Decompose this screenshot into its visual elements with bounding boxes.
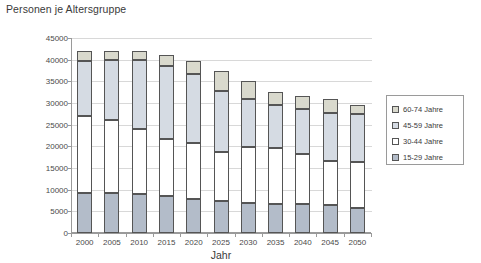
bar-segment bbox=[323, 99, 338, 113]
bar-segment bbox=[132, 129, 147, 194]
x-axis-tick-label: 2030 bbox=[239, 238, 257, 247]
legend-swatch-icon bbox=[392, 154, 399, 161]
bar-segment bbox=[159, 196, 174, 233]
bar-segment bbox=[132, 194, 147, 233]
y-axis-tick-label: 40000 bbox=[46, 55, 68, 64]
bar-segment bbox=[214, 91, 229, 152]
x-axis-tick-label: 2050 bbox=[348, 238, 366, 247]
bar-segment bbox=[186, 199, 201, 233]
legend-item[interactable]: 15-29 Jahre bbox=[392, 149, 463, 165]
x-axis-tick-label: 2015 bbox=[158, 238, 176, 247]
bar-column bbox=[77, 38, 92, 233]
x-axis-tick bbox=[207, 233, 208, 237]
x-axis-tick bbox=[371, 233, 372, 237]
x-axis-tick-label: 2045 bbox=[321, 238, 339, 247]
legend-swatch-icon bbox=[392, 138, 399, 145]
bar-column bbox=[323, 38, 338, 233]
bar-column bbox=[350, 38, 365, 233]
y-axis-tick-label: 25000 bbox=[46, 120, 68, 129]
bar-segment bbox=[214, 71, 229, 91]
bar-column bbox=[268, 38, 283, 233]
bar-segment bbox=[241, 81, 256, 98]
x-axis-tick bbox=[316, 233, 317, 237]
bar-segment bbox=[104, 51, 119, 60]
legend-swatch-icon bbox=[392, 122, 399, 129]
bar-segment bbox=[132, 51, 147, 60]
bar-segment bbox=[268, 148, 283, 204]
chart-container: Personen je Altersgruppe 050001000015000… bbox=[0, 0, 481, 263]
bar-segment bbox=[132, 60, 147, 129]
bar-segment bbox=[241, 147, 256, 203]
y-axis-tick-label: 15000 bbox=[46, 164, 68, 173]
bar-segment bbox=[214, 152, 229, 202]
bar-segment bbox=[104, 120, 119, 193]
bar-segment bbox=[77, 116, 92, 194]
bar-segment bbox=[295, 109, 310, 154]
bar-segment bbox=[268, 92, 283, 105]
bar-segment bbox=[323, 161, 338, 205]
bar-segment bbox=[186, 74, 201, 143]
bar-segment bbox=[159, 66, 174, 139]
bar-segment bbox=[350, 208, 365, 233]
legend-item[interactable]: 30-44 Jahre bbox=[392, 133, 463, 149]
bar-segment bbox=[77, 51, 92, 61]
bar-segment bbox=[323, 205, 338, 233]
chart-title: Personen je Altersgruppe bbox=[6, 3, 126, 15]
legend-item-label: 60-74 Jahre bbox=[403, 105, 443, 114]
y-axis-tick-label: 5000 bbox=[50, 207, 68, 216]
legend-item-label: 30-44 Jahre bbox=[403, 137, 443, 146]
bar-segment bbox=[77, 193, 92, 233]
bar-segment bbox=[323, 113, 338, 162]
y-axis-tick-label: 45000 bbox=[46, 34, 68, 43]
bar-series-group bbox=[71, 38, 371, 233]
legend-swatch-icon bbox=[392, 106, 399, 113]
legend-item-label: 15-29 Jahre bbox=[403, 153, 443, 162]
y-axis-labels: 0500010000150002000025000300003500040000… bbox=[36, 38, 68, 233]
bar-segment bbox=[295, 204, 310, 233]
x-axis-tick-label: 2035 bbox=[267, 238, 285, 247]
x-axis-tick-label: 2000 bbox=[76, 238, 94, 247]
bar-segment bbox=[268, 204, 283, 233]
bar-segment bbox=[104, 193, 119, 233]
x-axis-title: Jahr bbox=[71, 249, 371, 261]
x-axis-tick bbox=[126, 233, 127, 237]
bar-segment bbox=[241, 203, 256, 233]
x-axis-tick-label: 2020 bbox=[185, 238, 203, 247]
x-axis-tick bbox=[235, 233, 236, 237]
bar-segment bbox=[104, 60, 119, 120]
x-axis-tick-label: 2010 bbox=[130, 238, 148, 247]
bar-segment bbox=[214, 201, 229, 233]
x-axis-tick bbox=[153, 233, 154, 237]
legend-item-label: 45-59 Jahre bbox=[403, 121, 443, 130]
x-axis-tick-label: 2025 bbox=[212, 238, 230, 247]
bar-segment bbox=[159, 139, 174, 196]
bar-segment bbox=[295, 154, 310, 204]
bar-column bbox=[104, 38, 119, 233]
bar-column bbox=[132, 38, 147, 233]
bar-column bbox=[214, 38, 229, 233]
x-axis-tick bbox=[98, 233, 99, 237]
bar-column bbox=[159, 38, 174, 233]
y-axis-tick-label: 10000 bbox=[46, 185, 68, 194]
bar-column bbox=[295, 38, 310, 233]
legend-item[interactable]: 45-59 Jahre bbox=[392, 117, 463, 133]
x-axis-tick bbox=[180, 233, 181, 237]
x-axis-tick bbox=[71, 233, 72, 237]
chart-legend: 60-74 Jahre45-59 Jahre30-44 Jahre15-29 J… bbox=[386, 95, 464, 165]
bar-segment bbox=[186, 61, 201, 74]
bar-segment bbox=[77, 61, 92, 116]
bar-segment bbox=[350, 105, 365, 115]
x-axis-tick-label: 2040 bbox=[294, 238, 312, 247]
x-axis-tick bbox=[344, 233, 345, 237]
bar-segment bbox=[159, 55, 174, 66]
bar-segment bbox=[350, 114, 365, 161]
bar-segment bbox=[350, 162, 365, 209]
y-axis-tick-label: 30000 bbox=[46, 99, 68, 108]
bar-column bbox=[186, 38, 201, 233]
bar-segment bbox=[268, 105, 283, 147]
y-axis-tick-label: 20000 bbox=[46, 142, 68, 151]
bar-column bbox=[241, 38, 256, 233]
y-axis-tick-label: 35000 bbox=[46, 77, 68, 86]
x-axis-tick bbox=[289, 233, 290, 237]
legend-item[interactable]: 60-74 Jahre bbox=[392, 101, 463, 117]
